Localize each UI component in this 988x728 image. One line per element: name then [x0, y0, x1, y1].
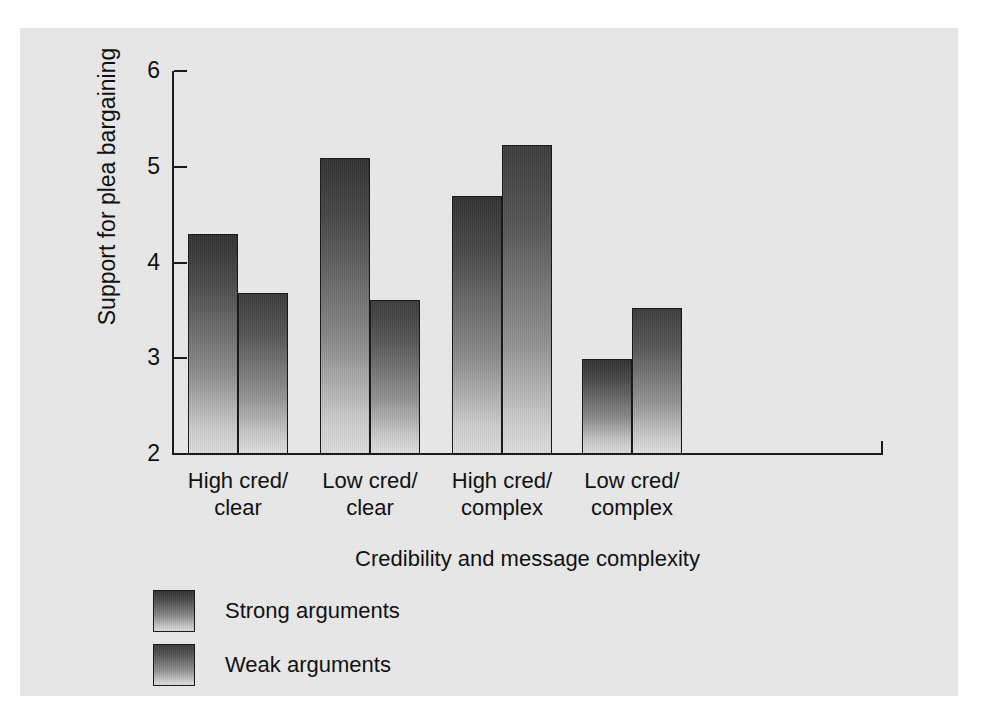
figure-panel: 23456 High cred/ clearLow cred/ clearHig… [20, 28, 958, 696]
y-axis-tick [174, 357, 187, 359]
y-axis-title: Support for plea bargaining [94, 47, 121, 327]
y-axis-tick [174, 262, 187, 264]
legend-item-strong-arguments: Strong arguments [153, 584, 400, 638]
bar [188, 234, 238, 454]
legend-swatch-weak-arguments [153, 644, 195, 686]
bar [632, 308, 682, 454]
x-axis-category-label: Low cred/ complex [522, 468, 742, 522]
bar [582, 359, 632, 454]
x-axis-title: Credibility and message complexity [172, 546, 883, 572]
bar [452, 196, 502, 454]
bar [370, 300, 420, 454]
chart-legend: Strong arguments Weak arguments [153, 584, 400, 692]
bar [502, 145, 552, 454]
bar [320, 158, 370, 454]
legend-swatch-strong-arguments [153, 590, 195, 632]
y-axis-tick [174, 166, 187, 168]
y-axis-tick [174, 70, 187, 72]
x-axis-end-tick [881, 441, 883, 454]
legend-label-strong-arguments: Strong arguments [225, 598, 400, 624]
bar [238, 293, 288, 454]
legend-item-weak-arguments: Weak arguments [153, 638, 400, 692]
legend-label-weak-arguments: Weak arguments [225, 652, 391, 678]
plot-area: 23456 High cred/ clearLow cred/ clearHig… [20, 28, 958, 696]
